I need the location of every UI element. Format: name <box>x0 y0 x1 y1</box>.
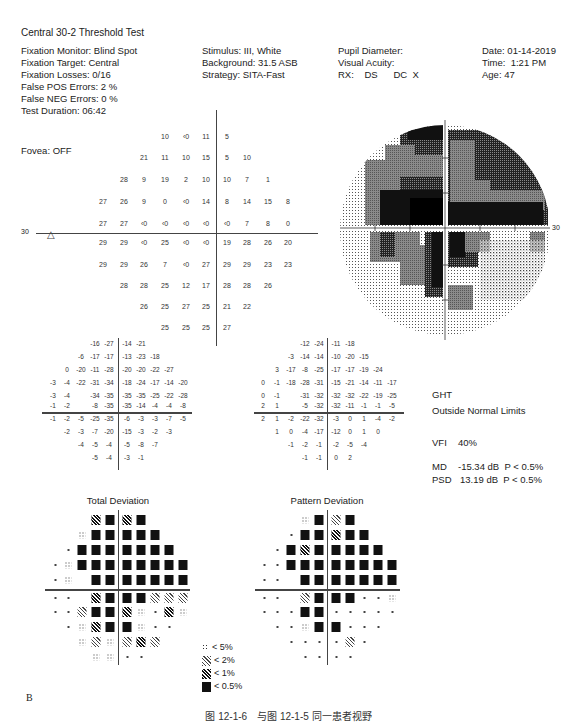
grid-value: 11 <box>202 133 209 140</box>
vfi-value: 40% <box>458 437 477 449</box>
prob-lt-0.5-icon <box>374 560 383 570</box>
grid-value: 7 <box>245 176 249 183</box>
grid-value: -35 <box>104 402 113 409</box>
grid-value: 29 <box>99 261 107 268</box>
grid-value: -11 <box>346 402 355 409</box>
grid-value: -17 <box>331 366 340 373</box>
prob-lt-5-icon <box>79 639 86 646</box>
grid-value: ‹0 <box>203 220 209 227</box>
grid-value: -1 <box>50 402 56 409</box>
grid-value: -4 <box>302 428 308 435</box>
ght-value: Outside Normal Limits <box>432 405 525 417</box>
grid-value: -5 <box>302 402 308 409</box>
prob-lt-0.5-icon <box>388 560 397 570</box>
pd-prob-horizontal-axis <box>255 589 400 591</box>
prob-lt-5-icon <box>180 609 187 616</box>
grid-value: 26 <box>120 198 128 205</box>
grid-value: -1 <box>302 454 308 461</box>
grid-value: -25 <box>150 392 159 399</box>
prob-normal-dot-icon <box>360 593 369 603</box>
grayscale-map <box>340 120 550 340</box>
prob-lt-5-icon <box>65 577 72 584</box>
grid-value: -3 <box>50 379 56 386</box>
grid-value: 25 <box>161 303 169 310</box>
prob-lt-0.5-icon <box>301 607 310 617</box>
grid-value: 11 <box>161 154 168 161</box>
grid-value: -13 <box>122 353 131 360</box>
td-vertical-axis <box>118 338 119 470</box>
td-prob-vertical-axis <box>118 510 119 665</box>
grid-value: -2 <box>64 415 70 422</box>
prob-normal-dot-icon <box>64 593 73 603</box>
grid-value: 14 <box>202 198 210 205</box>
grid-value: 23 <box>284 261 292 268</box>
threshold-horizontal-axis <box>36 233 318 234</box>
grid-value: -17 <box>387 379 396 386</box>
grid-value: 17 <box>202 282 210 289</box>
pd-vertical-axis <box>327 338 328 470</box>
grid-value: -15 <box>359 353 368 360</box>
prob-lt-0.5-icon <box>332 575 341 585</box>
grid-value: -4 <box>152 402 158 409</box>
grid-value: -1 <box>50 415 56 422</box>
grid-value: -24 <box>314 340 323 347</box>
grid-value: -32 <box>314 415 323 422</box>
test-time: Time: 1:21 PM <box>482 57 556 69</box>
prob-lt-5-icon <box>302 624 309 631</box>
grid-value: -35 <box>122 402 131 409</box>
grid-value: -14 <box>314 353 323 360</box>
grid-value: 2 <box>184 176 188 183</box>
pupil-diameter: Pupil Diameter: <box>338 45 419 57</box>
grid-value: -24 <box>373 366 382 373</box>
pattern-deviation-title: Pattern Deviation <box>291 495 364 506</box>
prob-lt-5-icon <box>79 624 86 631</box>
prob-lt-0.5-icon <box>165 560 174 570</box>
grid-value: -17 <box>345 366 354 373</box>
grid-value: ‹0 <box>183 239 189 246</box>
prob-lt-1-icon <box>165 607 174 617</box>
grid-value: -32 <box>314 392 323 399</box>
grid-value: 9 <box>142 198 146 205</box>
prob-normal-dot-icon <box>332 637 341 647</box>
prob-lt-0.5-icon <box>301 530 310 540</box>
grid-value: -19 <box>359 366 368 373</box>
grid-value: 25 <box>161 239 169 246</box>
prob-normal-dot-icon <box>315 652 324 662</box>
prob-normal-dot-icon <box>273 593 282 603</box>
grid-value: -21 <box>136 340 145 347</box>
prob-normal-dot-icon <box>374 593 383 603</box>
psd-label: PSD <box>432 474 452 486</box>
grid-value: -17 <box>150 379 159 386</box>
grid-value: -5 <box>92 441 98 448</box>
grid-value: 15 <box>202 154 210 161</box>
grid-value: -3 <box>152 415 158 422</box>
grid-value: -2 <box>64 402 70 409</box>
grid-value: -7 <box>92 428 98 435</box>
prob-lt-1-icon <box>137 637 146 647</box>
grid-value: 0 <box>376 428 380 435</box>
threshold-vertical-axis <box>216 110 217 346</box>
grid-value: 28 <box>140 282 148 289</box>
grid-value: ‹0 <box>203 239 209 246</box>
grid-value: ‹0 <box>162 220 168 227</box>
grid-value: 28 <box>243 239 251 246</box>
grid-value: 22 <box>243 303 251 310</box>
prob-lt-0.5-icon <box>137 560 146 570</box>
prob-normal-dot-icon <box>260 607 269 617</box>
grid-value: 21 <box>140 154 148 161</box>
td-horizontal-axis <box>42 412 192 414</box>
grid-value: 0 <box>348 415 352 422</box>
prob-lt-5-icon <box>65 562 72 569</box>
ght-label: GHT <box>432 389 452 401</box>
prob-lt-0.5-icon <box>92 560 101 570</box>
prob-normal-dot-icon <box>273 575 282 585</box>
prob-normal-dot-icon <box>123 652 132 662</box>
grid-value: 28 <box>243 282 251 289</box>
grid-value: -4 <box>64 392 70 399</box>
prob-lt-0.5-icon <box>346 575 355 585</box>
grid-value: 26 <box>140 261 148 268</box>
prob-normal-dot-icon <box>360 607 369 617</box>
prob-lt-5-icon <box>107 639 114 646</box>
prob-lt-0.5-icon <box>106 607 115 617</box>
prob-normal-dot-icon <box>51 607 60 617</box>
